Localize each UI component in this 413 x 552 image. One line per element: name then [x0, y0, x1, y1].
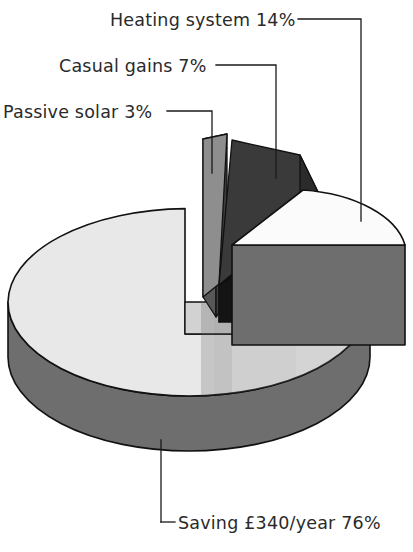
label-heating-system: Heating system 14%: [110, 10, 295, 30]
pie-chart-figure: Heating system 14% Casual gains 7% Passi…: [0, 0, 413, 552]
label-saving: Saving £340/year 76%: [178, 513, 381, 533]
slice-heating-system-side: [232, 245, 405, 345]
slice-casual-gains-side-left: [219, 278, 232, 322]
label-casual-gains: Casual gains 7%: [59, 56, 207, 76]
pie-chart-canvas: Heating system 14% Casual gains 7% Passi…: [0, 0, 413, 552]
label-passive-solar: Passive solar 3%: [3, 102, 152, 122]
